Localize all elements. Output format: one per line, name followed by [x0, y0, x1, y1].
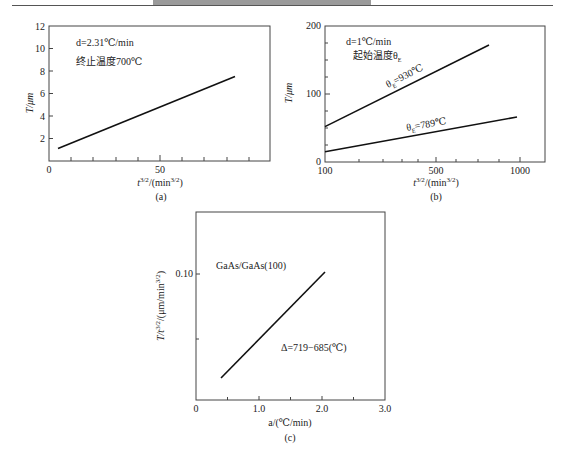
chart-b-x-ticks	[359, 157, 520, 162]
chart-c-y-ticks	[196, 274, 200, 339]
chart-b-x-tick-labels: 100 500 1000	[318, 165, 531, 176]
chart-a-y-ticks	[49, 49, 53, 139]
svg-text:2.0: 2.0	[316, 403, 329, 414]
chart-c-caption: (c)	[284, 432, 295, 444]
svg-text:50: 50	[155, 164, 165, 175]
svg-text:8: 8	[40, 66, 45, 77]
chart-b-y-tick-labels: 0 100 200	[306, 20, 321, 167]
chart-b-annotation-start-temp: 起始温度θE	[353, 49, 402, 63]
chart-c-x-axis-label: a/(℃/min)	[268, 417, 311, 429]
chart-c-plot-frame	[196, 212, 385, 400]
chart-a-annotation-end-temp: 终止温度700℃	[76, 55, 142, 67]
svg-text:4: 4	[40, 111, 45, 122]
chart-b-label-789: θE=789℃	[405, 115, 447, 135]
svg-text:0: 0	[194, 403, 199, 414]
chart-b-caption: (b)	[430, 191, 442, 203]
svg-text:3.0: 3.0	[379, 403, 392, 414]
svg-text:12: 12	[35, 21, 45, 32]
svg-text:100: 100	[318, 165, 333, 176]
chart-c-y-tick-label: 0.10	[176, 268, 194, 279]
chart-c: 0.10 0 1.0 2.0 3.0 GaAs/GaAs(100) Δ=719−…	[154, 212, 391, 444]
chart-a-x-ticks	[71, 155, 249, 161]
svg-text:2: 2	[40, 133, 45, 144]
chart-c-x-ticks	[228, 396, 354, 400]
chart-a-series-line	[58, 77, 235, 149]
chart-b-x-axis-label: t3/2/(min3/2)	[413, 176, 459, 189]
chart-b-y-ticks	[325, 43, 330, 145]
svg-text:6: 6	[40, 88, 45, 99]
svg-text:1000: 1000	[510, 165, 530, 176]
svg-text:200: 200	[306, 20, 321, 31]
chart-a-y-axis-label: T/μm	[24, 93, 35, 114]
chart-b: 0 100 200 100 500 1000 θE=930℃ θE=789℃ d	[283, 20, 545, 203]
figure-canvas: 2 4 6 8 10 12 0 50 d=2.31℃/min 终止温度700℃	[0, 0, 566, 469]
chart-a-x-tick-labels: 0 50	[47, 164, 166, 175]
chart-c-y-axis-label: T/t3/2/(μm/min3/2)	[154, 271, 167, 341]
chart-b-annotation-rate: d=1℃/min	[346, 36, 391, 47]
chart-b-series-930	[325, 45, 489, 127]
chart-c-annotation-delta: Δ=719−685(℃)	[281, 342, 347, 354]
chart-a-caption: (a)	[155, 191, 166, 203]
svg-text:1.0: 1.0	[253, 403, 266, 414]
svg-text:0: 0	[47, 164, 52, 175]
chart-c-series-line	[221, 272, 325, 378]
chart-a-x-axis-label: t3/2/(min3/2)	[137, 176, 183, 189]
chart-a-annotation-rate: d=2.31℃/min	[76, 37, 134, 48]
svg-text:100: 100	[306, 88, 321, 99]
svg-text:10: 10	[35, 43, 45, 54]
chart-a: 2 4 6 8 10 12 0 50 d=2.31℃/min 终止温度700℃	[24, 21, 270, 204]
chart-a-y-tick-labels: 2 4 6 8 10 12	[35, 21, 45, 145]
svg-text:500: 500	[429, 165, 444, 176]
chart-c-x-tick-labels: 0 1.0 2.0 3.0	[194, 403, 392, 414]
chart-b-y-axis-label: T/μm	[283, 83, 294, 104]
chart-c-annotation-material: GaAs/GaAs(100)	[216, 260, 286, 272]
